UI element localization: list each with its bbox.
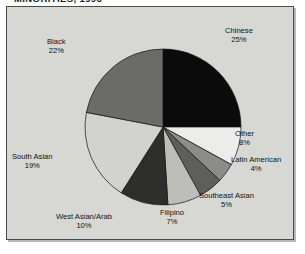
slice-label: Chinese25% (225, 26, 253, 45)
slice-label-name: Chinese (225, 26, 253, 35)
slice-label-value: 4% (231, 164, 281, 173)
pie-chart-figure: MINORITIES, 1996 Chinese25%Other8%Latin … (0, 0, 305, 254)
slice-label: Latin American4% (231, 155, 281, 174)
slice-label: Other8% (235, 129, 254, 148)
slice-label-value: 10% (56, 221, 112, 230)
slice-label: Southeast Asian5% (199, 191, 254, 210)
slice-label-value: 7% (160, 217, 184, 226)
slice-label-value: 5% (199, 200, 254, 209)
slice-label-name: South Asian (12, 152, 53, 161)
slice-label: Filipino7% (160, 208, 184, 227)
slice-label-name: Latin American (231, 155, 281, 164)
slice-label: West Asian/Arab10% (56, 212, 112, 231)
slice-label-name: West Asian/Arab (56, 212, 112, 221)
slice-label-value: 25% (225, 35, 253, 44)
slice-label-name: Filipino (160, 208, 184, 217)
slice-label-name: Southeast Asian (199, 191, 254, 200)
slice-label-value: 8% (235, 138, 254, 147)
slice-label-value: 22% (47, 46, 66, 55)
pie-slice[interactable] (163, 49, 241, 127)
slice-label-name: Black (47, 37, 66, 46)
slice-label: Black22% (47, 37, 66, 56)
slice-label-name: Other (235, 129, 254, 138)
slice-label: South Asian19% (12, 152, 53, 171)
chart-title: MINORITIES, 1996 (14, 0, 102, 4)
slice-label-value: 19% (12, 161, 53, 170)
pie-graphic (0, 0, 305, 254)
